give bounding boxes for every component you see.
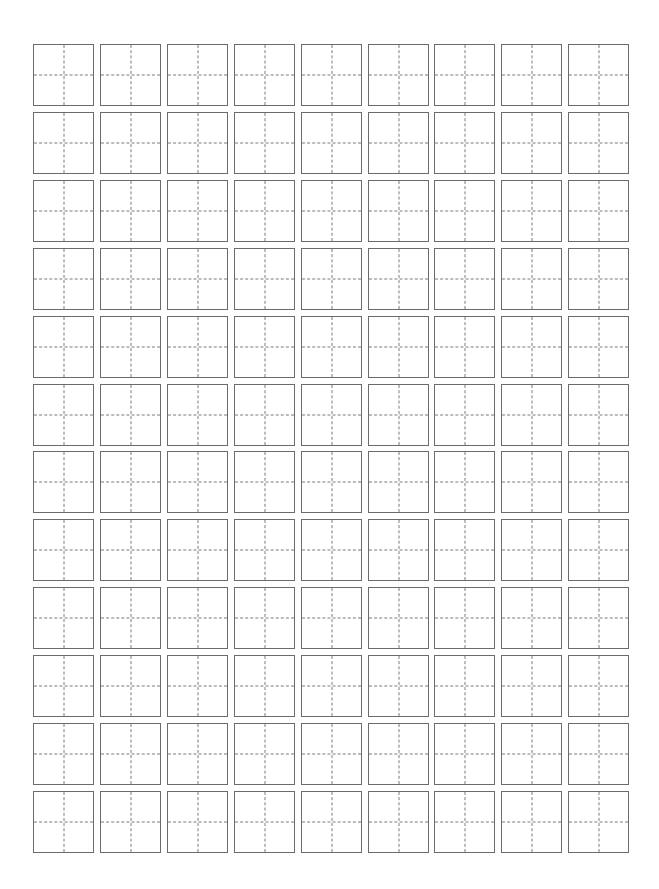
vertical-guide-line bbox=[398, 45, 399, 105]
grid-cell bbox=[33, 451, 94, 513]
grid-cell bbox=[234, 791, 295, 853]
vertical-guide-line bbox=[130, 181, 131, 241]
grid-cell bbox=[501, 316, 562, 378]
grid-cell bbox=[434, 180, 495, 242]
vertical-guide-line bbox=[464, 520, 465, 580]
grid-cell bbox=[100, 723, 161, 785]
vertical-guide-line bbox=[331, 792, 332, 852]
grid-cell bbox=[368, 44, 429, 106]
grid-cell bbox=[568, 316, 629, 378]
grid-cell bbox=[167, 248, 228, 310]
grid-cell bbox=[368, 451, 429, 513]
vertical-guide-line bbox=[331, 520, 332, 580]
vertical-guide-line bbox=[531, 113, 532, 173]
vertical-guide-line bbox=[331, 249, 332, 309]
grid-cell bbox=[368, 316, 429, 378]
vertical-guide-line bbox=[130, 113, 131, 173]
vertical-guide-line bbox=[398, 520, 399, 580]
vertical-guide-line bbox=[63, 656, 64, 716]
vertical-guide-line bbox=[130, 724, 131, 784]
grid-cell bbox=[100, 44, 161, 106]
grid-cell bbox=[33, 655, 94, 717]
vertical-guide-line bbox=[197, 113, 198, 173]
grid-cell bbox=[234, 316, 295, 378]
vertical-guide-line bbox=[264, 181, 265, 241]
vertical-guide-line bbox=[197, 724, 198, 784]
grid-cell bbox=[368, 384, 429, 446]
grid-cell bbox=[501, 44, 562, 106]
vertical-guide-line bbox=[464, 452, 465, 512]
grid-cell bbox=[568, 655, 629, 717]
vertical-guide-line bbox=[464, 656, 465, 716]
vertical-guide-line bbox=[63, 385, 64, 445]
vertical-guide-line bbox=[398, 385, 399, 445]
grid-cell bbox=[434, 316, 495, 378]
grid-cell bbox=[434, 384, 495, 446]
grid-cell bbox=[234, 587, 295, 649]
grid-cell bbox=[434, 791, 495, 853]
grid-cell bbox=[501, 451, 562, 513]
vertical-guide-line bbox=[398, 181, 399, 241]
vertical-guide-line bbox=[264, 520, 265, 580]
vertical-guide-line bbox=[598, 113, 599, 173]
vertical-guide-line bbox=[63, 317, 64, 377]
grid-cell bbox=[100, 112, 161, 174]
grid-cell bbox=[301, 112, 362, 174]
grid-cell bbox=[100, 451, 161, 513]
vertical-guide-line bbox=[197, 317, 198, 377]
vertical-guide-line bbox=[264, 45, 265, 105]
grid-cell bbox=[100, 384, 161, 446]
vertical-guide-line bbox=[464, 385, 465, 445]
vertical-guide-line bbox=[130, 656, 131, 716]
vertical-guide-line bbox=[63, 45, 64, 105]
grid-cell bbox=[100, 655, 161, 717]
grid-cell bbox=[568, 723, 629, 785]
vertical-guide-line bbox=[130, 792, 131, 852]
vertical-guide-line bbox=[398, 113, 399, 173]
vertical-guide-line bbox=[598, 588, 599, 648]
grid-cell bbox=[33, 180, 94, 242]
vertical-guide-line bbox=[264, 656, 265, 716]
vertical-guide-line bbox=[264, 452, 265, 512]
vertical-guide-line bbox=[264, 317, 265, 377]
grid-cell bbox=[301, 384, 362, 446]
vertical-guide-line bbox=[130, 385, 131, 445]
grid-cell bbox=[167, 723, 228, 785]
grid-cell bbox=[167, 451, 228, 513]
grid-cell bbox=[568, 112, 629, 174]
grid-cell bbox=[100, 519, 161, 581]
vertical-guide-line bbox=[531, 452, 532, 512]
vertical-guide-line bbox=[197, 385, 198, 445]
vertical-guide-line bbox=[531, 181, 532, 241]
grid-cell bbox=[568, 180, 629, 242]
grid-cell bbox=[434, 112, 495, 174]
grid-cell bbox=[301, 180, 362, 242]
grid-cell bbox=[301, 723, 362, 785]
vertical-guide-line bbox=[531, 792, 532, 852]
grid-cell bbox=[33, 44, 94, 106]
vertical-guide-line bbox=[598, 452, 599, 512]
vertical-guide-line bbox=[264, 724, 265, 784]
vertical-guide-line bbox=[63, 452, 64, 512]
vertical-guide-line bbox=[331, 45, 332, 105]
vertical-guide-line bbox=[398, 249, 399, 309]
vertical-guide-line bbox=[63, 792, 64, 852]
vertical-guide-line bbox=[398, 724, 399, 784]
grid-cell bbox=[167, 587, 228, 649]
vertical-guide-line bbox=[63, 113, 64, 173]
grid-cell bbox=[167, 519, 228, 581]
grid-cell bbox=[167, 316, 228, 378]
vertical-guide-line bbox=[531, 45, 532, 105]
grid-cell bbox=[167, 655, 228, 717]
grid-cell bbox=[100, 248, 161, 310]
vertical-guide-line bbox=[531, 385, 532, 445]
grid-cell bbox=[33, 316, 94, 378]
vertical-guide-line bbox=[63, 724, 64, 784]
vertical-guide-line bbox=[197, 656, 198, 716]
vertical-guide-line bbox=[464, 45, 465, 105]
vertical-guide-line bbox=[130, 588, 131, 648]
grid-cell bbox=[301, 248, 362, 310]
vertical-guide-line bbox=[264, 792, 265, 852]
grid-cell bbox=[368, 180, 429, 242]
grid-cell bbox=[301, 451, 362, 513]
